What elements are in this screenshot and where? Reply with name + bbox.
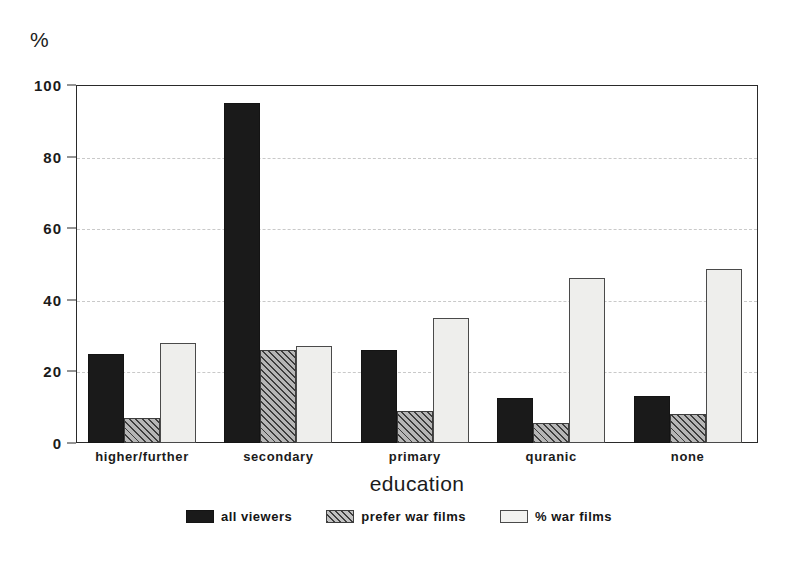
gridline bbox=[77, 158, 757, 159]
gridlines bbox=[77, 86, 757, 442]
legend-swatch-icon bbox=[326, 510, 354, 523]
y-tick-label: 40 bbox=[43, 291, 62, 308]
x-tick-label: secondary bbox=[243, 449, 313, 464]
bar-chart-figure: % 020406080100 higher/furthersecondarypr… bbox=[0, 0, 798, 567]
legend-swatch-icon bbox=[500, 510, 528, 523]
gridline bbox=[77, 229, 757, 230]
y-tick-label: 20 bbox=[43, 363, 62, 380]
x-tick-label: higher/further bbox=[95, 449, 189, 464]
x-tick-label: primary bbox=[389, 449, 441, 464]
y-axis-unit-label: % bbox=[30, 28, 49, 52]
x-axis-title: education bbox=[76, 472, 758, 496]
y-tick-mark bbox=[67, 299, 76, 300]
legend-entry: % war films bbox=[500, 509, 612, 524]
y-tick-mark bbox=[67, 443, 76, 444]
plot-area bbox=[76, 85, 758, 443]
y-tick-mark bbox=[67, 228, 76, 229]
x-tick-label: none bbox=[671, 449, 704, 464]
gridline bbox=[77, 372, 757, 373]
gridline bbox=[77, 301, 757, 302]
y-tick-label: 0 bbox=[53, 435, 62, 452]
legend-label: all viewers bbox=[221, 509, 292, 524]
y-tick-mark bbox=[67, 85, 76, 86]
y-tick-label: 60 bbox=[43, 220, 62, 237]
x-axis-tick-labels: higher/furthersecondaryprimaryquranicnon… bbox=[76, 449, 758, 471]
legend-swatch-icon bbox=[186, 510, 214, 523]
y-axis: 020406080100 bbox=[0, 85, 76, 443]
y-tick-mark bbox=[67, 156, 76, 157]
x-tick-label: quranic bbox=[526, 449, 577, 464]
legend: all viewersprefer war films% war films bbox=[0, 509, 798, 524]
legend-label: prefer war films bbox=[361, 509, 466, 524]
legend-entry: prefer war films bbox=[326, 509, 466, 524]
legend-label: % war films bbox=[535, 509, 612, 524]
legend-entry: all viewers bbox=[186, 509, 292, 524]
y-tick-mark bbox=[67, 371, 76, 372]
y-tick-label: 80 bbox=[43, 148, 62, 165]
y-tick-label: 100 bbox=[34, 77, 62, 94]
